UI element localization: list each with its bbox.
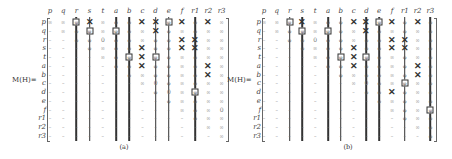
matrix-cell: φ: [429, 72, 433, 77]
matrix-cell: –: [263, 116, 266, 121]
column-header: q: [275, 7, 279, 15]
matrix-cell: φ: [403, 28, 407, 33]
matrix-cell: –: [365, 116, 368, 121]
matrix-cell: –: [352, 98, 355, 103]
row-header: b: [257, 71, 261, 79]
matrix-cell: –: [276, 81, 279, 86]
matrix-cell: –: [416, 133, 419, 138]
matrix-cell: ∞: [416, 28, 420, 33]
matrix-cell: –: [301, 90, 304, 95]
matrix-cell: φ: [403, 98, 407, 103]
matrix-cell: –: [327, 116, 330, 121]
matrix-cell: φ: [429, 20, 433, 25]
matrix-cell: –: [263, 125, 266, 130]
crossed-cell-icon: ✕: [388, 44, 396, 53]
matrix-cell: φ: [339, 63, 343, 68]
matrix-cell: φ: [326, 63, 330, 68]
matrix-cell: φ: [377, 55, 381, 60]
matrix-cell: –: [314, 63, 317, 68]
matrix-cell: φ: [326, 20, 330, 25]
matrix-cell: –: [340, 81, 343, 86]
matrix-cell: φ: [403, 116, 407, 121]
column-header: f: [391, 7, 394, 15]
right-bracket: [434, 18, 437, 142]
matrix-cell: –: [352, 133, 355, 138]
matrix-cell: –: [263, 107, 266, 112]
boxed-cell: φ: [325, 27, 332, 34]
matrix-cell: ∞: [313, 46, 317, 51]
matrix-cell: –: [301, 107, 304, 112]
row-header: f: [258, 106, 261, 114]
matrix-cell: –: [276, 37, 279, 42]
matrix-cell: –: [314, 125, 317, 130]
matrix-cell: φ: [429, 125, 433, 130]
boxed-cell: φ: [376, 19, 383, 26]
matrix-cell: –: [301, 72, 304, 77]
matrix-cell: ∞: [313, 20, 317, 25]
matrix-cell: –: [288, 63, 291, 68]
row-header: q: [257, 27, 261, 35]
matrix-cell: ∞: [416, 98, 420, 103]
boxed-cell: φ: [286, 19, 293, 26]
matrix-cell: –: [263, 55, 266, 60]
matrix-cell: ∞: [390, 63, 394, 68]
matrix-cell: –: [263, 28, 266, 33]
matrix-cell: φ: [365, 63, 369, 68]
matrix-cell: –: [352, 90, 355, 95]
matrix-cell: –: [314, 133, 317, 138]
matrix-cell: –: [365, 133, 368, 138]
matrix-cell: –: [378, 116, 381, 121]
matrix-cell: φ: [403, 107, 407, 112]
matrix-cell: –: [327, 133, 330, 138]
crossed-cell-icon: ✕: [401, 44, 409, 53]
matrix-cell: –: [288, 116, 291, 121]
matrix-cell: φ: [377, 63, 381, 68]
crossed-cell-icon: ✕: [298, 18, 306, 27]
row-header: p: [257, 18, 261, 26]
matrix-cell: –: [340, 116, 343, 121]
crossed-cell-icon: ✕: [388, 88, 396, 97]
matrix-cell: ∞: [390, 55, 394, 60]
row-header: c: [257, 79, 261, 87]
matrix-cell: –: [276, 107, 279, 112]
matrix-cell: ∞: [416, 107, 420, 112]
matrix-cell: ∞: [313, 55, 317, 60]
matrix-cell: –: [276, 46, 279, 51]
matrix-cell: –: [276, 98, 279, 103]
matrix-cell: ∞: [275, 28, 279, 33]
matrix-cell: –: [365, 107, 368, 112]
matrix-cell: –: [276, 116, 279, 121]
matrix-cell: –: [276, 133, 279, 138]
matrix-panel-b: pqrstabcdefr1r2r3pqrstabcdefr1r2r3M(H)=∞…: [0, 0, 452, 159]
matrix-cell: φ: [301, 46, 305, 51]
matrix-cell: φ: [365, 46, 369, 51]
matrix-cell: –: [314, 81, 317, 86]
matrix-cell: ∞: [416, 125, 420, 130]
column-header: r1: [401, 7, 409, 15]
matrix-cell: –: [391, 133, 394, 138]
crossed-cell-icon: ✕: [388, 18, 396, 27]
column-header: s: [301, 7, 305, 15]
matrix-cell: φ: [339, 72, 343, 77]
matrix-cell: φ: [429, 37, 433, 42]
matrix-cell: ∞: [416, 46, 420, 51]
crossed-cell-icon: ✕: [362, 26, 370, 35]
matrix-cell: –: [276, 125, 279, 130]
matrix-cell: φ: [429, 46, 433, 51]
column-header: c: [352, 7, 356, 15]
matrix-cell: φ: [326, 55, 330, 60]
matrix-cell: –: [340, 133, 343, 138]
matrix-cell: φ: [429, 28, 433, 33]
matrix-cell: φ: [403, 55, 407, 60]
column-header: d: [364, 7, 368, 15]
matrix-cell: φ: [377, 28, 381, 33]
matrix-cell: –: [352, 107, 355, 112]
matrix-cell: –: [276, 63, 279, 68]
matrix-cell: –: [314, 107, 317, 112]
matrix-cell: –: [340, 98, 343, 103]
matrix-label: M(H)=: [227, 76, 252, 84]
crossed-cell-icon: ✕: [350, 18, 358, 27]
crossed-cell-icon: ✕: [414, 70, 422, 79]
boxed-cell: φ: [401, 80, 408, 87]
matrix-cell: –: [327, 125, 330, 130]
